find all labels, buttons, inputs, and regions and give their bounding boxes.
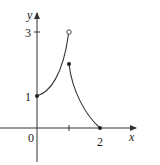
closed-point-0-1 bbox=[35, 94, 39, 98]
origin-label: 0 bbox=[28, 131, 34, 145]
curve-piece-1 bbox=[37, 34, 69, 96]
open-point-1-3 bbox=[67, 30, 71, 34]
x-axis-label: x bbox=[128, 130, 135, 144]
piecewise-function-graph: y x 0 2 1 3 bbox=[0, 0, 160, 165]
y-tick-1-label: 1 bbox=[25, 90, 31, 104]
closed-point-2-0 bbox=[98, 126, 102, 130]
closed-point-1-2 bbox=[67, 62, 71, 66]
y-tick-3-label: 3 bbox=[25, 26, 31, 40]
x-tick-2-label: 2 bbox=[97, 135, 103, 149]
y-axis-label: y bbox=[26, 8, 33, 22]
curve-piece-2 bbox=[69, 64, 100, 128]
